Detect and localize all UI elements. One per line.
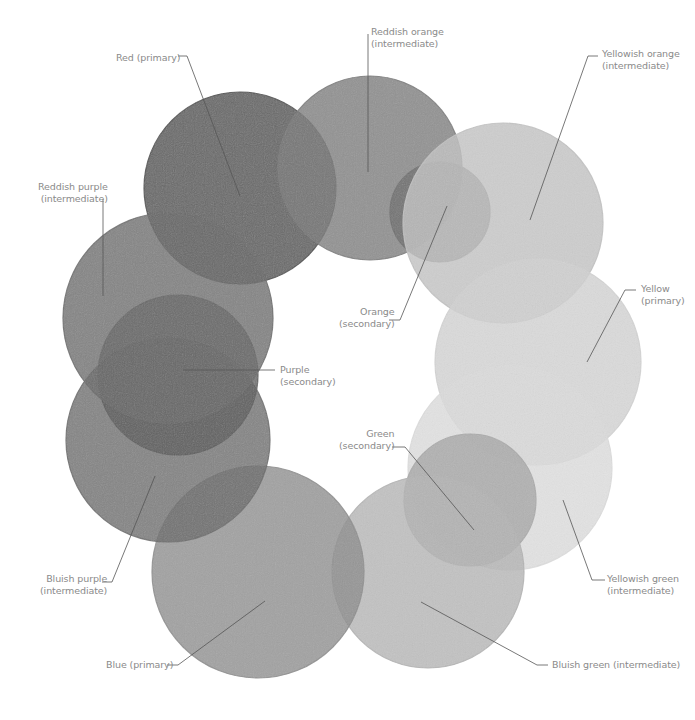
label-orange-name: Orange (339, 306, 395, 318)
label-red-name: Red (primary) (116, 52, 180, 64)
label-bluish-purple: Bluish purple(intermediate) (40, 573, 107, 597)
label-reddish-purple-category: (intermediate) (38, 193, 108, 205)
label-bluish-green-name: Bluish green (intermediate) (552, 659, 680, 671)
label-reddish-orange-category: (intermediate) (371, 38, 444, 50)
label-purple-category: (secondary) (280, 376, 336, 388)
label-green-category: (secondary) (339, 440, 395, 452)
label-yellowish-green-category: (intermediate) (607, 585, 679, 597)
label-yellowish-orange: Yellowish orange(intermediate) (602, 48, 680, 72)
label-yellow: Yellow(primary) (641, 283, 685, 307)
swatch-reddish-purple (63, 213, 273, 423)
label-yellowish-orange-name: Yellowish orange (602, 48, 680, 60)
label-yellowish-orange-category: (intermediate) (602, 60, 680, 72)
label-red: Red (primary) (116, 52, 180, 64)
label-blue: Blue (primary) (106, 659, 173, 671)
label-yellowish-green: Yellowish green(intermediate) (607, 573, 679, 597)
label-bluish-green: Bluish green (intermediate) (552, 659, 680, 671)
paint-swatches (63, 76, 641, 678)
label-orange: Orange(secondary) (339, 306, 395, 330)
label-bluish-purple-name: Bluish purple (40, 573, 107, 585)
label-purple-name: Purple (280, 364, 336, 376)
label-reddish-purple-name: Reddish purple (38, 181, 108, 193)
color-wheel-diagram (0, 0, 695, 720)
label-yellow-name: Yellow (641, 283, 685, 295)
label-reddish-purple: Reddish purple(intermediate) (38, 181, 108, 205)
label-green-name: Green (339, 428, 395, 440)
label-yellowish-green-name: Yellowish green (607, 573, 679, 585)
label-green: Green(secondary) (339, 428, 395, 452)
label-reddish-orange: Reddish orange(intermediate) (371, 26, 444, 50)
label-yellow-category: (primary) (641, 295, 685, 307)
label-orange-category: (secondary) (339, 318, 395, 330)
label-reddish-orange-name: Reddish orange (371, 26, 444, 38)
label-purple: Purple(secondary) (280, 364, 336, 388)
label-bluish-purple-category: (intermediate) (40, 585, 107, 597)
label-blue-name: Blue (primary) (106, 659, 173, 671)
